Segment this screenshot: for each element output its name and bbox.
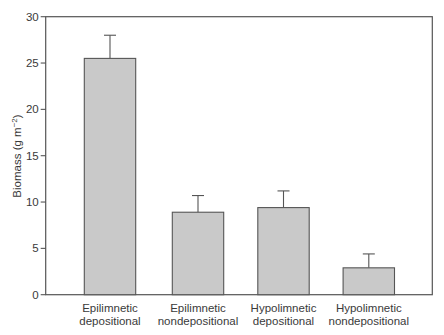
x-category-label: depositional xyxy=(253,315,314,327)
y-tick-label: 30 xyxy=(26,11,39,23)
y-tick-label: 10 xyxy=(26,196,39,208)
x-axis-labels: EpilimneticdepositionalEpilimneticnondep… xyxy=(79,302,409,327)
x-category-label: Epilimnetic xyxy=(82,302,138,314)
bar xyxy=(172,196,223,295)
x-category-label: Epilimnetic xyxy=(170,302,226,314)
bar xyxy=(258,191,309,295)
bars xyxy=(84,35,394,294)
y-tick-label: 25 xyxy=(26,57,39,69)
x-category-label: nondepositional xyxy=(158,315,239,327)
x-category-label: Hypolimnetic xyxy=(251,302,317,314)
y-tick-label: 20 xyxy=(26,103,39,115)
bar-chart: 051015202530 EpilimneticdepositionalEpil… xyxy=(0,0,444,335)
y-tick-label: 0 xyxy=(32,289,38,301)
y-axis: 051015202530 xyxy=(26,11,46,301)
bar xyxy=(343,254,394,295)
y-tick-label: 15 xyxy=(26,150,39,162)
y-tick-label: 5 xyxy=(32,242,38,254)
x-category-label: depositional xyxy=(79,315,140,327)
y-axis-title: Biomass (g m−2) xyxy=(10,114,23,197)
bar xyxy=(84,35,135,294)
x-category-label: nondepositional xyxy=(329,315,410,327)
x-category-label: Hypolimnetic xyxy=(336,302,402,314)
